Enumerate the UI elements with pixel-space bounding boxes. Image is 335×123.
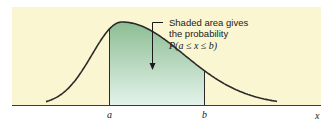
annotation-line-2: the probability: [169, 28, 228, 39]
annotation-line-1: Shaded area gives: [169, 17, 248, 28]
x-axis-label: x: [314, 110, 320, 121]
tick-label-b: b: [202, 109, 207, 120]
tick-label-a: a: [107, 109, 112, 120]
probability-diagram: Shaded area gives the probability P(a ≤ …: [0, 0, 335, 123]
annotation-probability-expression: P(a ≤ x ≤ b): [168, 40, 218, 52]
